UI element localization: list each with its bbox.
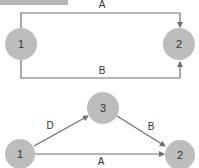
node-label: 1 — [17, 148, 23, 160]
node-label: 2 — [176, 38, 182, 50]
node-label: 2 — [177, 149, 183, 161]
diagram-bottom: D B A 1 3 2 — [5, 92, 195, 168]
node-1-bottom: 1 — [5, 139, 35, 168]
edge-label-b-bottom: B — [148, 121, 155, 132]
diagram-top: A B 1 2 — [5, 0, 195, 78]
node-2-top: 2 — [163, 28, 195, 60]
edge-a-top — [21, 13, 180, 28]
network-diagrams: A B 1 2 D B A 1 3 2 — [0, 0, 199, 168]
node-2-bottom: 2 — [165, 140, 195, 168]
edge-d-bottom — [34, 116, 88, 146]
node-label: 3 — [100, 102, 106, 114]
edge-label-a-bottom: A — [98, 156, 105, 167]
node-1-top: 1 — [5, 28, 37, 60]
edge-b-bottom — [117, 116, 165, 146]
edge-label-a-top: A — [99, 0, 106, 10]
node-label: 1 — [18, 38, 24, 50]
node-3-bottom: 3 — [87, 92, 119, 124]
edge-label-b-top: B — [99, 65, 106, 76]
header-bar — [0, 0, 68, 5]
edge-label-d-bottom: D — [46, 120, 53, 131]
